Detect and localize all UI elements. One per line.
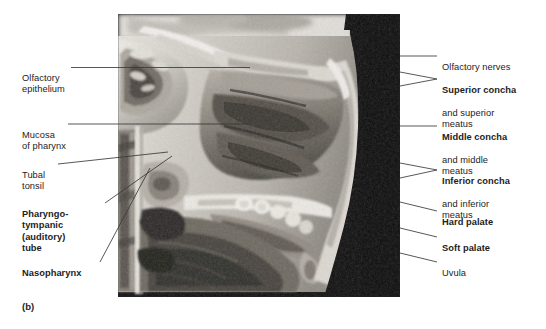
label-uvula: Uvula — [442, 257, 466, 279]
label-soft-palate: Soft palate — [442, 232, 490, 254]
leader-inferior-concha-a — [400, 163, 437, 170]
label-olfactory-nerves-text: Olfactory nerves — [442, 62, 510, 72]
leader-uvula — [400, 253, 437, 262]
anatomy-figure: Olfactory epithelium Mucosa of pharynx T… — [0, 0, 546, 329]
leader-superior-concha-b — [400, 79, 437, 86]
label-soft-palate-text: Soft palate — [442, 243, 490, 253]
sagittal-section-nasal-cavity-photograph — [118, 14, 400, 297]
label-olfactory-epithelium-text: Olfactory epithelium — [22, 73, 65, 94]
leader-superior-concha-a — [400, 72, 437, 79]
label-inferior-concha-title: Inferior concha — [442, 176, 510, 186]
label-nasopharynx-text: Nasopharynx — [22, 268, 81, 278]
photograph-graphic — [118, 14, 400, 297]
leader-inferior-concha-b — [400, 170, 437, 178]
figure-caption: (b) — [22, 301, 34, 312]
label-pharyngotympanic-auditory-tube-text: Pharyngo- tympanic (auditory) tube — [22, 209, 68, 253]
label-hard-palate: Hard palate — [442, 206, 493, 228]
label-middle-concha-title: Middle concha — [442, 132, 507, 142]
label-olfactory-nerves: Olfactory nerves — [442, 51, 510, 73]
label-tubal-tonsil: Tubal tonsil — [22, 159, 45, 193]
leader-soft-palate — [400, 228, 437, 237]
leader-hard-palate — [400, 202, 437, 211]
label-pharyngotympanic-auditory-tube: Pharyngo- tympanic (auditory) tube — [22, 198, 68, 254]
label-mucosa-of-pharynx-text: Mucosa of pharynx — [22, 130, 66, 151]
label-olfactory-epithelium: Olfactory epithelium — [22, 62, 65, 96]
label-mucosa-of-pharynx: Mucosa of pharynx — [22, 119, 66, 153]
label-hard-palate-text: Hard palate — [442, 217, 493, 227]
label-uvula-text: Uvula — [442, 268, 466, 278]
label-nasopharynx: Nasopharynx — [22, 257, 81, 279]
label-tubal-tonsil-text: Tubal tonsil — [22, 170, 45, 191]
label-superior-concha-title: Superior concha — [442, 85, 516, 95]
